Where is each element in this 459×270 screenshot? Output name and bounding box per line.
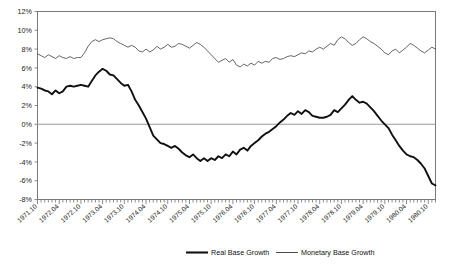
- x-tick-label: 1979.04: [341, 202, 364, 223]
- y-tick-label: 4%: [22, 82, 33, 91]
- series-line-monetary-base-growth: [38, 37, 436, 67]
- y-tick-label: 2%: [22, 101, 33, 110]
- legend-label-real-base-growth: Real Base Growth: [211, 248, 269, 257]
- x-tick-label: 1977.04: [255, 202, 278, 223]
- y-tick-label: 6%: [22, 64, 33, 73]
- x-tick-label: 1971.10: [16, 202, 39, 223]
- x-tick-label: 1976.10: [233, 202, 256, 223]
- series-line-real-base-growth: [38, 69, 436, 186]
- x-tick-label: 1975.10: [189, 202, 212, 223]
- y-tick-label: -4%: [19, 158, 32, 167]
- x-tick-label: 1972.04: [37, 202, 60, 223]
- chart-legend: Real Base GrowthMonetary Base Growth: [186, 248, 375, 257]
- line-chart: 12%10%8%6%4%2%0%-2%-4%-6%-8% 1971.101972…: [0, 0, 459, 270]
- y-axis-labels: 12%10%8%6%4%2%0%-2%-4%-6%-8%: [18, 7, 33, 204]
- x-tick-label: 1973.04: [81, 202, 104, 223]
- y-tick-label: 12%: [18, 7, 33, 16]
- y-axis-tickmarks: [35, 12, 38, 200]
- x-tick-label: 1978.10: [320, 202, 343, 223]
- y-tick-label: 8%: [22, 45, 33, 54]
- x-axis-labels: 1971.101972.041972.101973.041973.101974.…: [16, 202, 429, 223]
- plot-frame: [38, 12, 436, 200]
- x-tick-label: 1974.04: [124, 202, 147, 223]
- x-tick-label: 1979.10: [363, 202, 386, 223]
- y-tick-label: -2%: [19, 139, 32, 148]
- x-tick-label: 1973.10: [103, 202, 126, 223]
- y-tick-label: -6%: [19, 176, 32, 185]
- x-tick-label: 1972.10: [59, 202, 82, 223]
- x-tick-label: 1976.04: [211, 202, 234, 223]
- x-tick-label: 1977.10: [276, 202, 299, 223]
- x-tick-label: 1980.10: [407, 202, 430, 223]
- y-tick-label: -8%: [19, 195, 32, 204]
- plot-area-border: [38, 12, 436, 200]
- y-tick-label: 0%: [22, 120, 33, 129]
- y-tick-label: 10%: [18, 26, 33, 35]
- data-series-group: [38, 37, 436, 186]
- x-tick-label: 1974.10: [146, 202, 169, 223]
- legend-label-monetary-base-growth: Monetary Base Growth: [301, 248, 375, 257]
- x-tick-label: 1978.04: [298, 202, 321, 223]
- x-tick-label: 1975.04: [168, 202, 191, 223]
- chart-container: 12%10%8%6%4%2%0%-2%-4%-6%-8% 1971.101972…: [0, 0, 459, 270]
- x-tick-label: 1980.04: [385, 202, 408, 223]
